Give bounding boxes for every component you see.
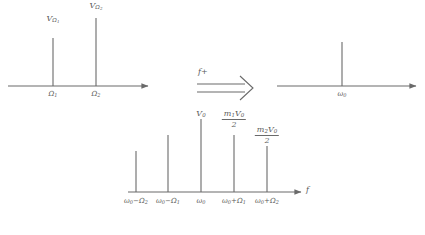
sideband-2-numerator: m2V0 bbox=[255, 126, 279, 136]
modulated-axis-label: f bbox=[306, 186, 309, 194]
diagram-svg bbox=[0, 0, 425, 235]
baseband-tick-label-omega1: Ω1 bbox=[49, 90, 58, 98]
modulated-tick-label-upper-sideband-1: ω0+Ω1 bbox=[222, 197, 246, 205]
baseband-amplitude-label-omega1: VΩ1 bbox=[47, 15, 60, 24]
modulated-tick-label-carrier: ω0 bbox=[197, 197, 206, 205]
frequency-shift-label: f+ bbox=[198, 68, 208, 76]
arrow-head-chevron bbox=[240, 76, 253, 100]
carrier-spectrum-group bbox=[277, 42, 416, 86]
modulated-tick-label-upper-sideband-2: ω0+Ω2 bbox=[255, 197, 279, 205]
figure-canvas: VΩ1 VΩ2 Ω1 Ω2 f+ ω0 V0 m1V0 2 m2V0 2 ω0−… bbox=[0, 0, 425, 235]
sideband-2-denominator: 2 bbox=[255, 136, 279, 145]
frequency-shift-arrow-group bbox=[197, 76, 253, 100]
modulated-tick-label-lower-sideband-2: ω0−Ω2 bbox=[124, 197, 148, 205]
baseband-tick-label-omega2: Ω2 bbox=[92, 90, 101, 98]
modulated-amplitude-label-sideband-2: m2V0 2 bbox=[255, 126, 279, 145]
baseband-amplitude-label-omega2: VΩ2 bbox=[90, 2, 103, 11]
baseband-spectrum-group bbox=[8, 18, 148, 86]
sideband-1-numerator: m1V0 bbox=[222, 110, 246, 120]
carrier-tick-label-omega0: ω0 bbox=[338, 90, 347, 98]
sideband-1-denominator: 2 bbox=[222, 120, 246, 129]
modulated-tick-label-lower-sideband-1: ω0−Ω1 bbox=[156, 197, 180, 205]
modulated-amplitude-label-carrier: V0 bbox=[196, 110, 205, 118]
modulated-amplitude-label-sideband-1: m1V0 2 bbox=[222, 110, 246, 129]
